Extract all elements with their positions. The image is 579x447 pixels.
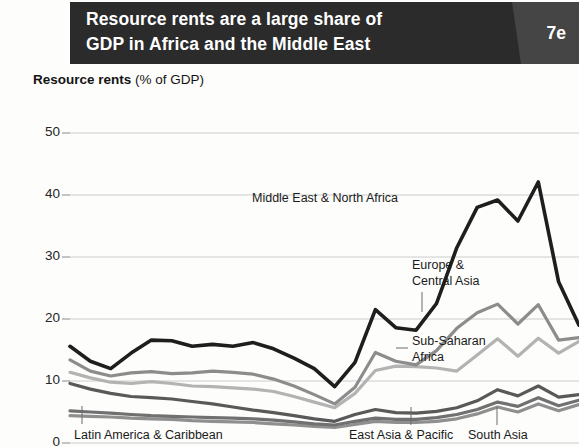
series-label-line: Central Asia	[412, 274, 479, 290]
series-label-line: Africa	[412, 350, 486, 366]
series-label-line: Europe &	[412, 258, 479, 274]
series-label-line: Sub-Saharan	[412, 334, 486, 350]
y-tick-label: 30	[30, 248, 60, 263]
figure-root: Resource rents are a large share of GDP …	[0, 0, 579, 447]
series-label-line: South Asia	[468, 428, 528, 444]
series-label: East Asia & Pacific	[349, 428, 453, 444]
series-label: Sub-SaharanAfrica	[412, 334, 486, 365]
y-tick-label: 10	[30, 372, 60, 387]
figure-number: 7e	[547, 23, 566, 44]
series-line	[70, 182, 579, 387]
series-label: Europe &Central Asia	[412, 258, 479, 289]
series-label-line: Middle East & North Africa	[252, 191, 398, 207]
y-tick-label: 40	[30, 186, 60, 201]
series-label: South Asia	[468, 428, 528, 444]
series-lines	[70, 182, 579, 428]
y-tick-label: 20	[30, 310, 60, 325]
series-label-line: East Asia & Pacific	[349, 428, 453, 444]
y-tick-label: 0	[30, 434, 60, 447]
y-tick-label: 50	[30, 124, 60, 139]
series-label: Latin America & Caribbean	[74, 428, 223, 444]
series-label-line: Latin America & Caribbean	[74, 428, 223, 444]
series-label: Middle East & North Africa	[252, 191, 398, 207]
line-chart-plot	[0, 0, 579, 447]
